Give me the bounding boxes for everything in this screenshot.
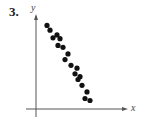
y-axis <box>34 14 38 117</box>
data-point <box>65 51 70 56</box>
data-point <box>60 45 65 50</box>
data-point <box>72 71 77 76</box>
x-axis <box>26 107 128 111</box>
data-point <box>47 28 52 33</box>
data-point <box>87 98 92 103</box>
data-point <box>75 77 80 82</box>
data-point <box>57 36 62 41</box>
data-point <box>44 23 49 28</box>
data-point <box>68 63 73 68</box>
data-point <box>62 57 67 62</box>
data-point <box>74 66 79 71</box>
scatter-plot <box>0 0 150 117</box>
data-point <box>82 96 87 101</box>
data-points <box>44 23 92 103</box>
data-point <box>79 83 84 88</box>
data-point <box>55 43 60 48</box>
data-point <box>84 89 89 94</box>
